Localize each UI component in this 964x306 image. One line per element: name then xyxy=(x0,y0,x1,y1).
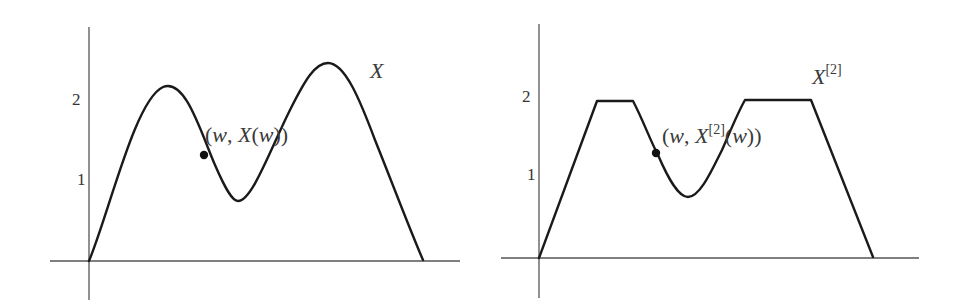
curve-label-x2: X[2] xyxy=(811,62,842,89)
marked-point xyxy=(652,149,660,157)
marked-point xyxy=(200,151,208,159)
panel-x: 2 1 X (w, X(w)) xyxy=(50,27,460,300)
curve-label-x: X xyxy=(369,58,385,83)
point-label-right: (w, X[2](w)) xyxy=(662,122,761,148)
y-tick-label-1: 1 xyxy=(527,165,536,184)
point-label-left: (w, X(w)) xyxy=(205,122,288,147)
y-tick-label-2: 2 xyxy=(522,87,531,106)
y-tick-label-1: 1 xyxy=(77,170,86,189)
panel-x-truncated: 2 1 X[2] (w, X[2](w)) xyxy=(501,24,919,298)
diagram-canvas: 2 1 X (w, X(w)) 2 1 X[2] (w, X[2](w)) xyxy=(0,0,964,306)
curve-x xyxy=(89,63,423,261)
y-tick-label-2: 2 xyxy=(72,90,81,109)
